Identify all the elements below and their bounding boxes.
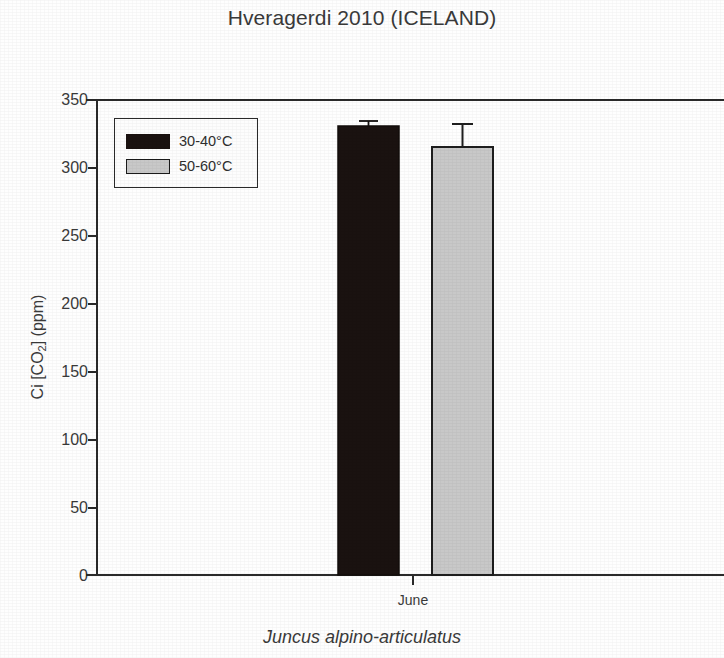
error-bar-50-60c-june: [452, 124, 473, 147]
legend-label-30-40c: 30-40°C: [179, 133, 232, 149]
x-tick-label-june: June: [363, 592, 463, 608]
legend-label-50-60c: 50-60°C: [179, 158, 232, 174]
species-caption: Juncus alpino-articulatus: [0, 627, 724, 648]
legend-item-30-40c: 30-40°C: [126, 130, 232, 152]
plot-area: [0, 0, 724, 658]
bar-30-40c-june: [338, 126, 399, 575]
legend-swatch-icon-dark: [126, 134, 170, 149]
legend-item-50-60c: 50-60°C: [126, 155, 232, 177]
bar-50-60c-june: [432, 147, 493, 575]
y-tick-marks: [86, 100, 97, 575]
legend-swatch-icon-light: [126, 159, 170, 174]
chart-legend: 30-40°C 50-60°C: [114, 118, 258, 188]
chart-figure: Hveragerdi 2010 (ICELAND) Ci [CO2] (ppm)…: [0, 0, 724, 658]
